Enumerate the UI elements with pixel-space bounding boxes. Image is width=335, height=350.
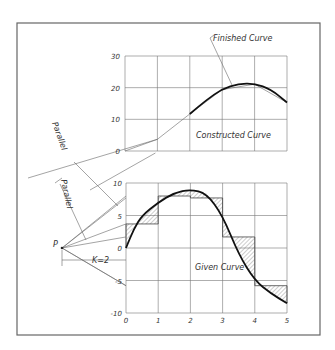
top-y-tick: 0 <box>116 148 121 156</box>
finished-curve-leader <box>210 38 232 85</box>
parallel-construction-line <box>28 139 157 178</box>
constructed-curve-label: Constructed Curve <box>196 131 271 140</box>
integration-diagram: 01020301050-5-10012345 Finished Curve Co… <box>0 0 335 350</box>
parallel-label-2: Parallel <box>59 179 74 210</box>
parallel-arrow-line <box>74 162 118 206</box>
top-y-tick: 20 <box>111 85 120 93</box>
parallel-construction-line <box>90 153 155 190</box>
bottom-x-tick: 4 <box>253 317 257 325</box>
top-y-tick: 30 <box>111 53 120 61</box>
bottom-y-tick: 0 <box>118 245 123 253</box>
given-curve-label: Given Curve <box>195 263 244 272</box>
top-y-tick: 10 <box>111 116 120 124</box>
pole-point <box>61 247 64 250</box>
constructed-curve <box>125 84 287 151</box>
finished-curve-label: Finished Curve <box>213 34 273 43</box>
bottom-x-tick: 1 <box>156 317 160 325</box>
pole-distance-label: K=2 <box>92 256 109 265</box>
hatched-area <box>126 203 158 249</box>
hatched-area <box>190 190 222 216</box>
ray-line <box>62 237 126 248</box>
bottom-x-tick: 3 <box>220 317 224 325</box>
bottom-y-tick: 5 <box>118 213 123 221</box>
bottom-x-tick: 2 <box>188 317 193 325</box>
bottom-y-tick: -10 <box>111 310 123 318</box>
ray-line <box>62 224 126 248</box>
tick-labels: 01020301050-5-10012345 <box>111 53 290 325</box>
pole-label: P <box>53 240 58 249</box>
bottom-y-tick: 10 <box>113 180 122 188</box>
bottom-grid <box>126 183 287 313</box>
parallel-label-1: Parallel <box>50 121 69 153</box>
finished-curve <box>190 84 287 114</box>
bottom-y-tick: -5 <box>115 278 123 286</box>
given-curve <box>126 190 287 303</box>
bottom-x-tick: 0 <box>124 317 129 325</box>
bottom-x-tick: 5 <box>285 317 290 325</box>
